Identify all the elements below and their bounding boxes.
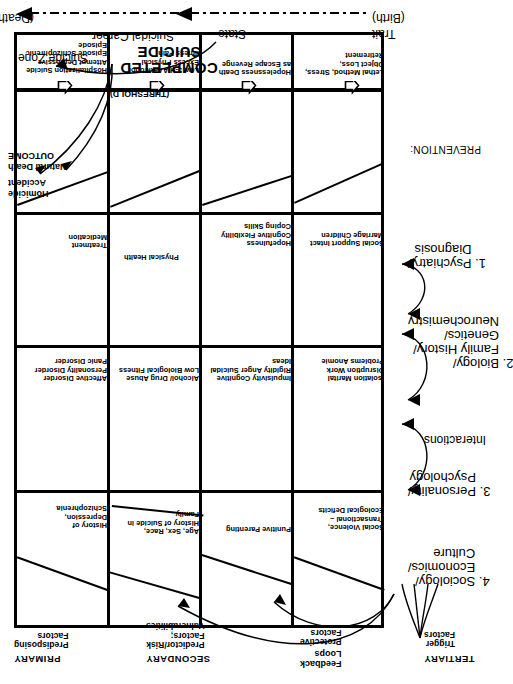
cell-biology-protective: Physical Health [110,215,199,345]
cell-personality-protective: Hopefulness Cognitive Flexibility Coping… [202,215,291,345]
prevention-heading: PREVENTION: [410,143,481,154]
cell-label: Social Violence, Transactional – Ecologi… [300,506,384,531]
death-label: (Death) [0,11,34,24]
cell-label: Hopelessness Death as Escape Revenge [214,59,291,76]
state-label: State [218,27,246,40]
stage-sub-primary: Predisposing Factors [14,630,68,649]
cell-label: Lethal Method, Stress, Object Loss, Reti… [302,51,384,76]
cell-label: Physical Health [124,253,179,261]
cell-psychiatry-secondary: Affective Disorder Personality Disorder … [17,348,107,490]
cell-label: History of Depression, Schizophrenia [29,504,107,529]
accident-label: Accident [8,177,46,187]
cell-biology-secondary: Alcohol/ Drug Abuse Low Biological Fitne… [110,348,199,490]
suicide-zone-curve [40,32,220,88]
cell-diagonal [294,163,382,204]
timeline-arrow-career [176,7,192,21]
cell-label: Punitive Parenting [226,525,291,533]
cell-psychiatry-protective: Treatment Medication [17,215,107,345]
cell-sociology-secondary: Isolation Marital Disruption Work Proble… [294,348,384,490]
cell-personality-secondary: Impulsivity Cognitive Rigidity Anger Sui… [202,348,291,490]
stage-header-primary: PRIMARY [14,654,60,664]
timeline-track [30,12,366,14]
homicide-label: Homicide [8,188,49,198]
cell-label: Isolation Marital Disruption Work Proble… [300,357,384,382]
stage-header-tertiary: TERTIARY [424,654,475,664]
cell-sociology-protective: Social Support Intact Marriage Children [294,215,384,345]
cell-psychiatry-primary: History of Depression, Schizophrenia [17,493,107,625]
cell-diagonal [202,175,292,206]
cell-label: Impulsivity Cognitive Rigidity Anger Sui… [208,357,291,382]
birth-label: (Birth) [372,11,405,24]
outcome-label: OUTCOME [8,150,54,160]
feedback-loop-curves [150,578,400,668]
interactions-label: Interactions [424,433,486,446]
cell-label: Treatment Medication [33,232,107,249]
trait-label: Trait [372,27,396,40]
cell-label: Hopefulness Cognitive Flexibility Coping… [212,222,291,247]
threshold-arrow-sociology [340,81,362,98]
cell-label: Affective Disorder Personality Disorder … [25,357,107,382]
threshold-arrow-personality [237,81,259,98]
cell-label: Social Support Intact Marriage Children [306,230,384,247]
natural-death-label: Natural Death [8,161,67,171]
interaction-arcs [392,240,438,610]
cell-diagonal [17,557,108,591]
cell-label: Age, Sex, Race, History of Suicide in Fa… [118,510,199,535]
cell-sociology-tertiary: Lethal Method, Stress, Object Loss, Reti… [294,32,384,212]
cell-label: Alcohol/ Drug Abuse Low Biological Fitne… [118,365,199,382]
